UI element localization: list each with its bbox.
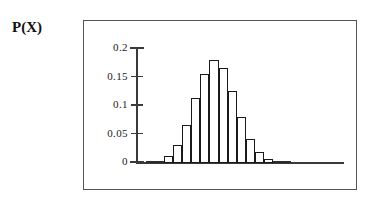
y-axis-tick-label: 0.2 xyxy=(113,41,128,53)
y-axis-tick-label: 0.15 xyxy=(107,70,128,82)
histogram-bar xyxy=(155,161,164,163)
histogram-bar xyxy=(191,98,200,163)
histogram-bar xyxy=(164,156,173,163)
y-axis-tick-label: 0.1 xyxy=(113,98,128,110)
y-axis-tick-label: 0 xyxy=(122,155,128,167)
y-axis-tick xyxy=(131,104,143,106)
histogram-bar xyxy=(282,161,291,163)
histogram-bar xyxy=(209,60,218,163)
histogram-bar xyxy=(246,139,255,164)
histogram-bars xyxy=(146,48,291,163)
histogram-bar xyxy=(264,159,273,163)
y-axis-tick xyxy=(130,47,144,49)
y-axis-tick-label-wrap: 0.1 xyxy=(84,98,128,110)
histogram-bar xyxy=(146,161,155,163)
y-axis-tick-label-wrap: 0.05 xyxy=(84,127,128,139)
histogram-bar xyxy=(237,117,246,163)
y-axis-tick xyxy=(130,161,144,163)
plot-area: 0.20.150.10.050 xyxy=(84,21,358,191)
y-axis-tick-label-wrap: 0.15 xyxy=(84,70,128,82)
histogram-bar xyxy=(273,161,282,163)
histogram-bar xyxy=(182,125,191,163)
y-axis-tick-label-wrap: 0 xyxy=(84,155,128,167)
histogram-bar xyxy=(200,74,209,163)
y-axis-tick xyxy=(131,133,143,135)
histogram-bar xyxy=(173,145,182,163)
y-axis-tick xyxy=(131,76,143,78)
y-axis-title: P(X) xyxy=(12,19,42,36)
histogram-bar xyxy=(255,152,264,163)
y-axis-tick-label: 0.05 xyxy=(107,127,128,139)
plot-frame-border: 0.20.150.10.050 xyxy=(83,20,357,190)
y-axis-tick-label-wrap: 0.2 xyxy=(84,41,128,53)
histogram-bar xyxy=(219,68,228,163)
histogram-bar xyxy=(228,91,237,163)
probability-histogram-figure: P(X) 0.20.150.10.050 xyxy=(0,0,374,206)
